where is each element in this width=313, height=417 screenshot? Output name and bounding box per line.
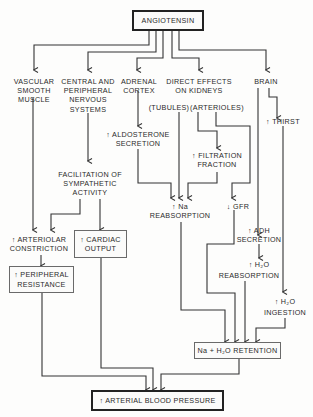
- arterioles-label: (ARTERIOLES): [190, 103, 244, 112]
- gfr-label: ↓ GFR: [227, 202, 249, 211]
- adh-secretion-label: ↑ ADH SECRETION: [237, 226, 282, 244]
- angiotensin-box: ANGIOTENSIN: [132, 10, 204, 31]
- adrenal-cortex-label: ADRENAL CORTEX: [121, 77, 157, 95]
- peripheral-resistance-box: ↑ PERIPHERAL RESISTANCE: [9, 266, 74, 293]
- arteriolar-constriction-label: ↑ ARTERIOLAR CONSTRICTION: [10, 235, 68, 253]
- nervous-systems-label: CENTRAL AND PERIPHERAL NERVOUS SYSTEMS: [61, 77, 114, 114]
- thirst-label: ↑ THIRST: [266, 117, 300, 126]
- cardiac-output-label: ↑ CARDIAC OUTPUT: [80, 235, 121, 253]
- h2o-reabsorption-line1: ↑ H₂O: [249, 260, 270, 269]
- na-reabsorption-label: ↑ Na REABSORPTION: [150, 202, 211, 220]
- vascular-smooth-muscle-label: VASCULAR SMOOTH MUSCLE: [14, 77, 55, 105]
- arterial-blood-pressure-box: ↑ ARTERIAL BLOOD PRESSURE: [91, 390, 224, 411]
- retention-label: Na + H₂O RETENTION: [198, 346, 278, 355]
- aldosterone-secretion-label: ↑ ALDOSTERONE SECRETION: [106, 130, 169, 148]
- retention-box: Na + H₂O RETENTION: [194, 342, 281, 359]
- h2o-ingestion-line1: ↑ H₂O: [275, 297, 296, 306]
- filtration-fraction-label: ↑ FILTRATION FRACTION: [192, 151, 242, 169]
- h2o-reabsorption-line2: REABSORPTION: [219, 271, 280, 280]
- angiotensin-label: ANGIOTENSIN: [142, 16, 195, 25]
- peripheral-resistance-label: ↑ PERIPHERAL RESISTANCE: [14, 270, 69, 288]
- cardiac-output-box: ↑ CARDIAC OUTPUT: [74, 230, 127, 258]
- h2o-ingestion-line2: INGESTION: [264, 308, 306, 317]
- tubules-label: (TUBULES): [149, 103, 190, 112]
- brain-label: BRAIN: [254, 77, 277, 86]
- angiotensin-flow-diagram: ANGIOTENSIN VASCULAR SMOOTH MUSCLE CENTR…: [0, 0, 313, 417]
- sympathetic-activity-label: FACILITATION OF SYMPATHETIC ACTIVITY: [58, 170, 122, 198]
- arterial-blood-pressure-label: ↑ ARTERIAL BLOOD PRESSURE: [99, 396, 215, 405]
- kidney-effects-label: DIRECT EFFECTS ON KIDNEYS: [166, 77, 232, 95]
